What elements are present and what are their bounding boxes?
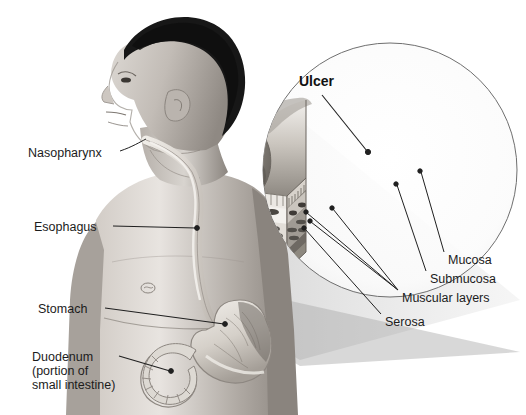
label-nasopharynx: Nasopharynx	[28, 147, 102, 161]
label-submucosa: Submucosa	[430, 273, 496, 287]
label-duodenum: Duodenum	[32, 351, 93, 365]
label-duodenum-line2: (portion of	[32, 365, 88, 379]
label-mucosa: Mucosa	[448, 254, 492, 268]
label-muscular-layers: Muscular layers	[402, 292, 490, 306]
label-esophagus: Esophagus	[34, 221, 97, 235]
illustration-canvas: Nasopharynx Esophagus Stomach Duodenum (…	[0, 0, 526, 415]
label-duodenum-line3: small intestine)	[32, 379, 115, 393]
label-stomach: Stomach	[38, 303, 87, 317]
label-serosa: Serosa	[385, 316, 425, 330]
label-ulcer: Ulcer	[299, 75, 334, 89]
